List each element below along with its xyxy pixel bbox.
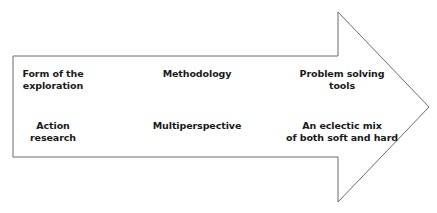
- header-methodology: Methodology: [163, 68, 232, 80]
- arrow-shape: [0, 0, 437, 213]
- value-action-research: Action research: [30, 120, 76, 144]
- header-problem-solving-tools: Problem solving tools: [300, 68, 385, 92]
- header-line: Methodology: [163, 68, 232, 80]
- value-line: research: [30, 132, 76, 144]
- value-line: Multiperspective: [153, 120, 242, 132]
- value-line: Action: [30, 120, 76, 132]
- header-line: tools: [300, 80, 385, 92]
- header-line: Problem solving: [300, 68, 385, 80]
- value-eclectic-mix: An eclectic mix of both soft and hard: [286, 120, 398, 144]
- value-line: of both soft and hard: [286, 132, 398, 144]
- header-line: Form of the: [22, 68, 83, 80]
- header-line: exploration: [22, 80, 83, 92]
- header-form-of-exploration: Form of the exploration: [22, 68, 83, 92]
- value-line: An eclectic mix: [286, 120, 398, 132]
- value-multiperspective: Multiperspective: [153, 120, 242, 132]
